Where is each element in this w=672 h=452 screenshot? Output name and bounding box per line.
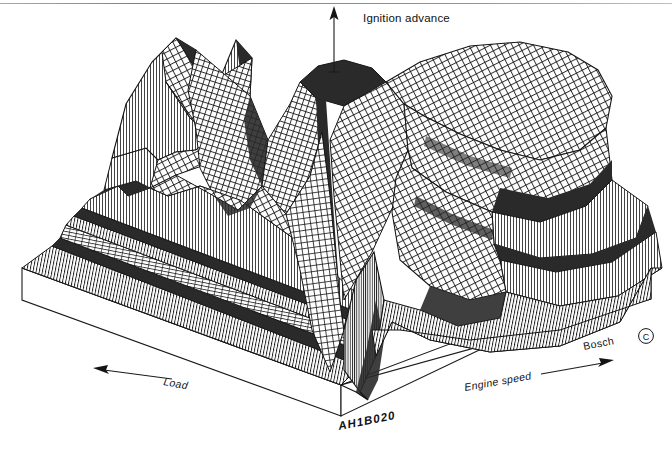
engine-speed-plateau [372,42,662,356]
axis-label-load: Load [163,375,190,391]
axis-label-engine-speed: Engine speed [463,369,533,393]
load-axis [93,365,172,379]
axis-label-ignition-advance: Ignition advance [363,12,450,24]
bosch-wordmark: Bosch [582,334,615,352]
engine-speed-axis [541,358,614,374]
ignition-advance-surface-plot: Ignition advance Load Engine speed Bosch… [0,0,672,452]
figure-root: Ignition advance Load Engine speed Bosch… [0,0,672,452]
scan-rule-top [0,3,672,4]
copyright-icon: C [643,332,650,342]
